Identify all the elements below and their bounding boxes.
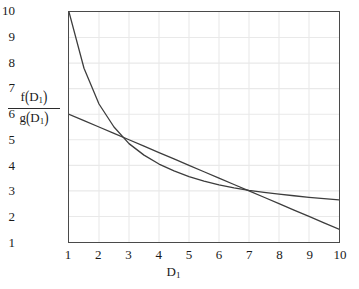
y-axis-tick-label: 10 (0, 3, 15, 19)
x-axis-label-text: D (167, 264, 176, 279)
x-axis-tick-label: 2 (85, 247, 111, 263)
y-axis-tick-label: 4 (0, 158, 15, 174)
y-axis-tick-label: 9 (0, 29, 15, 45)
x-axis-tick-label: 9 (297, 247, 323, 263)
x-axis-tick-label: 10 (327, 247, 353, 263)
y-axis-tick-label: 7 (0, 80, 15, 96)
y-axis-tick-label: 8 (0, 55, 15, 71)
y-axis-label-denominator-arg: D (30, 110, 39, 125)
x-axis-label: D1 (0, 264, 359, 280)
y-axis-tick-label: 1 (0, 235, 15, 251)
x-axis-tick-label: 4 (146, 247, 172, 263)
x-axis-tick-label: 6 (206, 247, 232, 263)
fraction-bar (8, 108, 60, 109)
y-axis-tick-label: 3 (0, 183, 15, 199)
x-axis-tick-label: 3 (115, 247, 141, 263)
y-axis-tick-label: 5 (0, 132, 15, 148)
y-axis-label-numerator-arg: D (29, 89, 38, 104)
data-curves (69, 12, 339, 242)
x-axis-tick-label: 7 (236, 247, 262, 263)
y-axis-tick-label: 2 (0, 209, 15, 225)
x-axis-tick-label: 1 (55, 247, 81, 263)
chart-figure: f(D1) g(D1) 12345678910 12345678910 D1 (0, 0, 359, 289)
x-axis-label-sub: 1 (176, 270, 181, 280)
x-axis-tick-label: 5 (176, 247, 202, 263)
plot-area (68, 11, 340, 243)
y-axis-tick-label: 6 (0, 106, 15, 122)
x-axis-tick-label: 8 (267, 247, 293, 263)
